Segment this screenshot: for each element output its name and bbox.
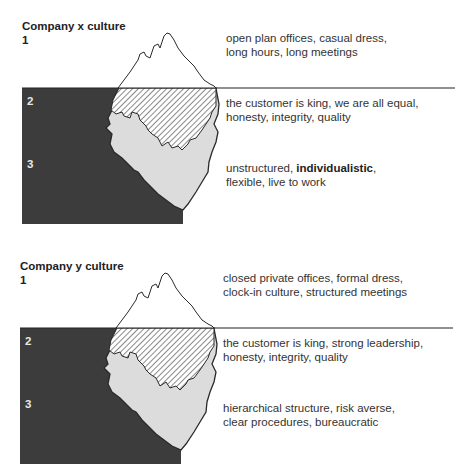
- diagram-title: Company x culture: [22, 20, 126, 33]
- iceberg-tip: [116, 273, 214, 328]
- level-3-description: unstructured, individualistic, flexible,…: [226, 162, 466, 189]
- diagram-title: Company y culture: [20, 260, 124, 273]
- iceberg-tip: [118, 33, 216, 88]
- level-1-description: open plan offices, casual dress, long ho…: [226, 32, 466, 59]
- level-3-number: 3: [25, 398, 31, 411]
- emphasis-individualistic: individualistic: [296, 162, 373, 174]
- level-2-number: 2: [25, 335, 31, 348]
- level-3-number: 3: [27, 158, 33, 171]
- level-2-number: 2: [27, 95, 33, 108]
- level-3-description: hierarchical structure, risk averse, cle…: [223, 402, 463, 429]
- level-1-number: 1: [20, 274, 26, 287]
- company-y-diagram: Company y culture 1 2 3 closed private o…: [0, 240, 470, 476]
- company-x-diagram: Company x culture 1 2 3 open plan office…: [0, 0, 470, 240]
- level-1-description: closed private offices, formal dress, cl…: [223, 272, 463, 299]
- level-1-number: 1: [22, 34, 28, 47]
- level-2-description: the customer is king, we are all equal, …: [226, 97, 466, 124]
- level-2-description: the customer is king, strong leadership,…: [223, 337, 463, 364]
